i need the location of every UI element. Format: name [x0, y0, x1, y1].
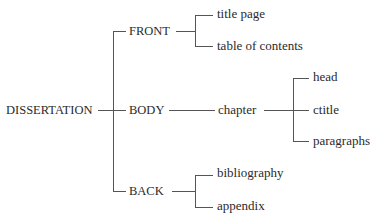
node-dissertation: DISSERTATION: [6, 103, 92, 117]
node-body: BODY: [129, 103, 164, 117]
node-bibliography: bibliography: [217, 166, 283, 180]
node-title-page: title page: [217, 7, 265, 21]
node-ctitle: ctitle: [313, 103, 339, 117]
node-paragraphs: paragraphs: [313, 134, 370, 148]
node-front: FRONT: [129, 24, 170, 38]
node-back: BACK: [129, 184, 164, 198]
node-table-of-contents: table of contents: [217, 39, 303, 53]
node-head: head: [313, 70, 338, 84]
node-chapter: chapter: [218, 103, 256, 117]
node-appendix: appendix: [217, 199, 265, 213]
